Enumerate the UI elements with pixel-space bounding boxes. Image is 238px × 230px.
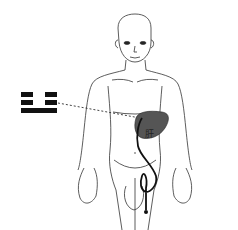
connector-line [58, 103, 140, 118]
meridian-endpoint [144, 210, 148, 214]
trigram-icon [21, 92, 57, 113]
meridian-diagram [0, 0, 238, 230]
organ-label: 肝 [145, 127, 154, 140]
